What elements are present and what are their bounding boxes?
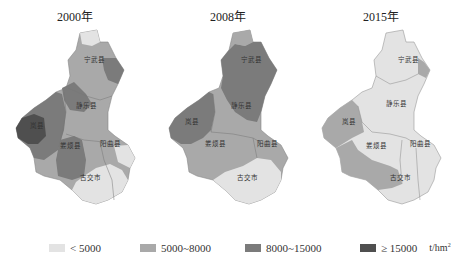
legend-item-lt5000: < 5000 xyxy=(49,238,101,258)
label-yangqu: 阳曲县 xyxy=(410,139,431,148)
legend-unit: t/hm2 xyxy=(429,242,450,253)
label-loufan: 娄烦县 xyxy=(366,141,387,150)
label-yangqu: 阳曲县 xyxy=(100,139,121,148)
label-loufan: 娄烦县 xyxy=(60,141,81,150)
label-jingle: 静乐县 xyxy=(386,99,407,108)
choropleth-map-2015: 宁武县 静乐县 岚县 娄烦县 阳曲县 古交市 xyxy=(306,0,456,225)
choropleth-map-2000: 宁武县 静乐县 岚县 娄烦县 阳曲县 古交市 xyxy=(0,0,150,225)
legend-label: 5000~8000 xyxy=(161,242,211,254)
legend-swatch xyxy=(140,244,156,252)
legend-item-ge15000: ≥ 15000 t/hm2 xyxy=(360,238,451,258)
label-yangqu: 阳曲县 xyxy=(257,139,278,148)
legend-swatch xyxy=(360,244,376,252)
label-ningwu: 宁武县 xyxy=(398,55,419,64)
map-panel-2008: 2008年 宁武县 静乐县 岚县 娄烦县 阳曲县 古交市 xyxy=(153,0,303,225)
map-panel-2015: 2015年 宁武县 静乐县 岚县 娄烦县 阳曲县 古交市 xyxy=(306,0,456,225)
map-legend: < 5000 5000~8000 8000~15000 ≥ 15000 t/hm… xyxy=(0,238,461,258)
legend-label: < 5000 xyxy=(70,242,101,254)
label-loufan: 娄烦县 xyxy=(205,139,226,148)
label-gujiao: 古交市 xyxy=(390,173,411,182)
label-jingle: 静乐县 xyxy=(76,101,97,110)
unit-sup: 2 xyxy=(448,242,451,248)
legend-item-5000-8000: 5000~8000 xyxy=(140,238,211,258)
label-gujiao: 古交市 xyxy=(237,173,258,182)
choropleth-map-2008: 宁武县 静乐县 岚县 娄烦县 阳曲县 古交市 xyxy=(153,0,303,225)
label-ningwu: 宁武县 xyxy=(84,55,105,64)
label-lanxian: 岚县 xyxy=(342,118,356,126)
legend-label: 8000~15000 xyxy=(266,242,321,254)
legend-swatch xyxy=(49,244,65,252)
map-panel-2000: 2000年 宁武县 静乐县 岚县 娄烦县 阳曲县 古交市 xyxy=(0,0,150,225)
label-lanxian: 岚县 xyxy=(30,122,44,130)
legend-item-8000-15000: 8000~15000 xyxy=(245,238,321,258)
label-lanxian: 岚县 xyxy=(185,118,199,126)
legend-label: ≥ 15000 xyxy=(381,242,417,254)
label-gujiao: 古交市 xyxy=(80,173,101,182)
label-ningwu: 宁武县 xyxy=(241,55,262,64)
legend-swatch xyxy=(245,244,261,252)
label-jingle: 静乐县 xyxy=(231,101,252,110)
unit-text: t/hm xyxy=(429,243,447,254)
